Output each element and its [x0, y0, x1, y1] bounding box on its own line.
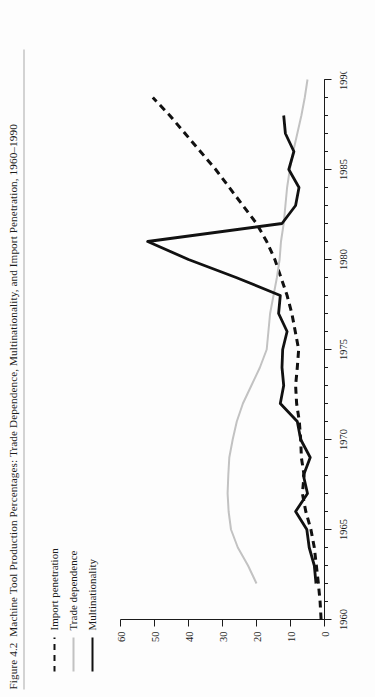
plot-area: 1960196519701975198019851990010203040506… — [112, 71, 364, 671]
y-tick-label: 60 — [115, 631, 126, 642]
x-tick-label: 1965 — [337, 519, 348, 540]
series-line-multinationality — [147, 115, 315, 583]
chart-legend: Import penetration Trade dependence Mult… — [46, 548, 103, 671]
legend-label-multinationality: Multinationality — [86, 559, 97, 631]
y-tick-label: 0 — [319, 631, 330, 636]
series-line-import-penetration — [152, 97, 320, 619]
rotated-figure-plate: Figure 4.2 Machine Tool Production Perce… — [0, 0, 375, 697]
caption-rule — [23, 49, 24, 689]
legend-item-import-penetration: Import penetration — [46, 548, 61, 671]
figure-page: Figure 4.2 Machine Tool Production Perce… — [0, 0, 375, 697]
y-tick-label: 10 — [285, 631, 296, 642]
x-tick-label: 1960 — [337, 609, 348, 630]
figure-number: Figure 4.2 — [6, 642, 18, 689]
x-tick-label: 1970 — [337, 429, 348, 450]
x-tick-label: 1990 — [337, 71, 348, 90]
legend-label-trade-dependence: Trade dependence — [67, 550, 78, 630]
line-chart-svg: 1960196519701975198019851990010203040506… — [112, 71, 364, 671]
legend-item-multinationality: Multinationality — [84, 548, 99, 671]
x-tick-label: 1975 — [337, 339, 348, 360]
legend-item-trade-dependence: Trade dependence — [65, 548, 80, 671]
x-tick-label: 1985 — [337, 159, 348, 180]
y-tick-label: 40 — [183, 631, 194, 642]
y-tick-label: 50 — [149, 631, 160, 642]
figure-caption-text: Machine Tool Production Percentages: Tra… — [6, 124, 18, 637]
legend-label-import-penetration: Import penetration — [48, 548, 59, 630]
y-tick-label: 30 — [217, 631, 228, 642]
y-tick-label: 20 — [251, 631, 262, 642]
figure-caption: Figure 4.2 Machine Tool Production Perce… — [6, 29, 18, 689]
x-tick-label: 1980 — [337, 249, 348, 270]
